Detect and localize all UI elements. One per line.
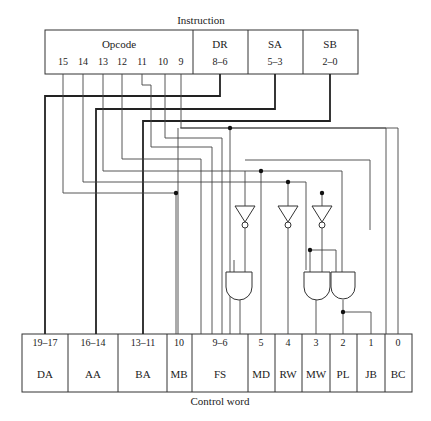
cw-bc-range: 0 — [396, 337, 401, 348]
dr-range: 8–6 — [213, 56, 228, 67]
cw-da-range: 19–17 — [33, 337, 58, 348]
cw-pl-range: 2 — [341, 337, 346, 348]
cw-mb-range: 10 — [174, 337, 184, 348]
instruction-register-box — [45, 30, 358, 74]
inverter-3 — [312, 206, 332, 222]
inverter-1 — [235, 206, 255, 222]
opcode-bit-11: 11 — [137, 56, 147, 67]
control-word-title: Control word — [191, 395, 250, 407]
cw-mb-label: MB — [170, 368, 187, 380]
cw-mw-label: MW — [306, 368, 326, 380]
sb-range: 2–0 — [323, 56, 338, 67]
cw-md-label: MD — [252, 368, 270, 380]
cw-fs-range: 9–6 — [213, 337, 228, 348]
cw-pl-label: PL — [337, 368, 350, 380]
cw-rw-label: RW — [279, 368, 296, 380]
and-gate-md — [226, 272, 252, 300]
cw-jb-range: 1 — [369, 337, 374, 348]
and-gate-pl — [331, 272, 355, 299]
opcode-bit-12: 12 — [117, 56, 127, 67]
sb-label: SB — [323, 38, 336, 50]
cw-da-label: DA — [37, 368, 53, 380]
dr-label: DR — [212, 38, 227, 50]
cw-bc-label: BC — [391, 368, 406, 380]
cw-ba-label: BA — [135, 368, 150, 380]
cw-ba-range: 13–11 — [131, 337, 156, 348]
opcode-bit-13: 13 — [98, 56, 108, 67]
inverter-2 — [278, 206, 298, 222]
instruction-title: Instruction — [177, 14, 225, 26]
opcode-bit-9: 9 — [179, 56, 184, 67]
cw-aa-range: 16–14 — [81, 337, 106, 348]
opcode-label: Opcode — [102, 38, 136, 50]
cw-aa-label: AA — [85, 368, 101, 380]
cw-jb-label: JB — [365, 368, 377, 380]
sa-label: SA — [268, 38, 282, 50]
cw-fs-label: FS — [214, 368, 226, 380]
sa-range: 5–3 — [268, 56, 283, 67]
opcode-bit-14: 14 — [78, 56, 88, 67]
opcode-bit-15: 15 — [58, 56, 68, 67]
and-gate-mw — [304, 272, 330, 300]
dr-to-da-bus — [45, 74, 220, 334]
opcode-bit-10: 10 — [158, 56, 168, 67]
cw-rw-range: 4 — [286, 337, 291, 348]
cw-mw-range: 3 — [314, 337, 319, 348]
cw-md-range: 5 — [259, 337, 264, 348]
